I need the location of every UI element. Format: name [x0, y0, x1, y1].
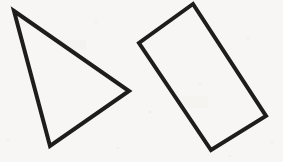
scan-canvas	[0, 0, 283, 162]
paper-background	[0, 0, 283, 162]
shapes-drawing	[0, 0, 283, 162]
